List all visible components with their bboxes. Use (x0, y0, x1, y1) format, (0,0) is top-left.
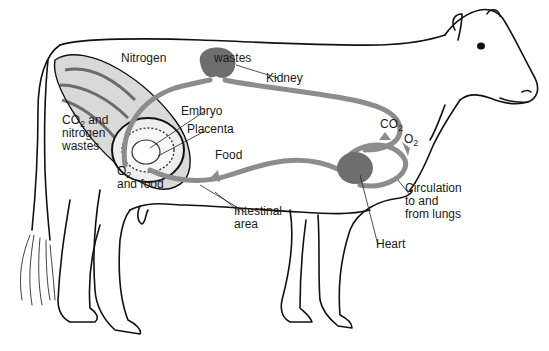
label-food: Food (215, 149, 242, 162)
o2-subscript: 2 (413, 138, 418, 148)
label-heart: Heart (376, 238, 405, 251)
area-text: area (234, 218, 282, 231)
embryo-shape (132, 140, 160, 164)
wastes-text: wastes (62, 140, 108, 153)
label-co2: CO2 (380, 118, 403, 131)
cow-diagram (0, 0, 549, 351)
label-co2-nitrogen-wastes: CO2 and nitrogen wastes (62, 114, 108, 153)
co2-text: CO (380, 117, 398, 131)
label-placenta: Placenta (187, 123, 234, 136)
co2-subscript: 2 (398, 123, 403, 133)
from-lungs-text: from lungs (405, 208, 462, 221)
label-o2: O2 (404, 133, 418, 146)
label-o2-and-food: O2 and food (117, 165, 164, 191)
and-text: and (85, 113, 108, 127)
label-intestinal-area: Intestinal area (234, 205, 282, 231)
label-nitrogen: Nitrogen (121, 52, 166, 65)
label-wastes: wastes (214, 52, 251, 65)
o2-text: O (117, 164, 126, 178)
label-embryo: Embryo (181, 105, 222, 118)
co2-text: CO (62, 113, 80, 127)
heart-shape (337, 152, 373, 184)
o2-text: O (404, 132, 413, 146)
label-circulation: Circulation to and from lungs (405, 182, 462, 221)
label-kidney: Kidney (266, 72, 303, 85)
and-food-text: and food (117, 178, 164, 191)
vessel-kidney-heart (225, 80, 400, 150)
arrow-co2-out (379, 132, 391, 140)
eye-icon (477, 43, 485, 50)
cow-outline (20, 10, 537, 335)
